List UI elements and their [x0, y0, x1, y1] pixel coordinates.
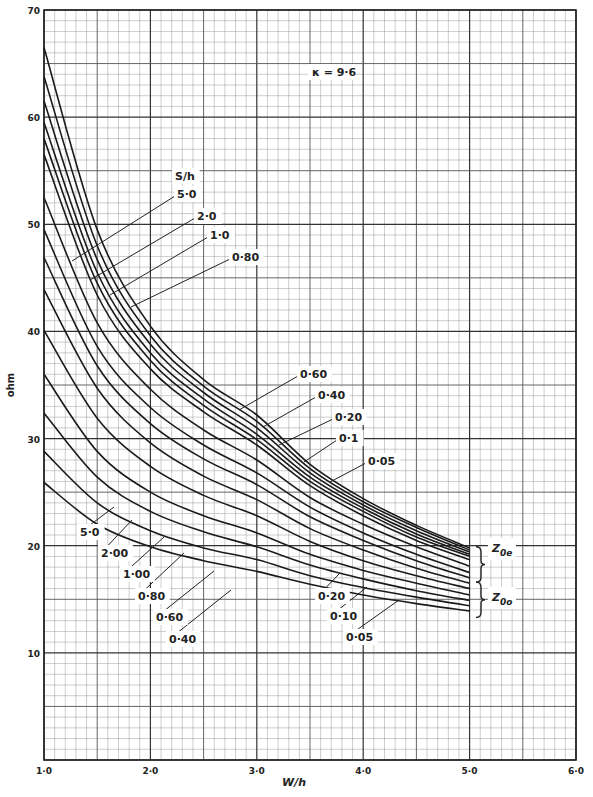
curve-label: 1·0: [210, 229, 230, 242]
y-tick-label: 20: [27, 542, 40, 552]
curve-labels: S/h5·02·01·00·800·600·400·200·10·055·02·…: [77, 168, 400, 647]
x-tick-label: 2·0: [142, 766, 158, 776]
curve-label: 0·60: [156, 611, 183, 624]
y-tick-label: 40: [27, 327, 40, 337]
annotation-kappa: κ = 9·6: [308, 64, 357, 80]
x-tick-label: 6·0: [568, 766, 584, 776]
curve-label: 0·20: [335, 411, 362, 424]
curve-label: S/h: [175, 170, 195, 183]
kappa-annotation: κ = 9·6: [312, 66, 357, 79]
grid-major: [44, 10, 576, 760]
curve-label: 0·20: [318, 590, 345, 603]
curve-label: 0·40: [318, 389, 345, 402]
x-axis-title: W/h: [282, 776, 306, 789]
chart: S/h5·02·01·00·800·600·400·200·10·055·02·…: [0, 0, 593, 797]
curve-label: 0·60: [300, 368, 327, 381]
x-tick-label: 4·0: [355, 766, 371, 776]
curve-label: 5·0: [177, 188, 197, 201]
y-tick-label: 70: [27, 6, 40, 16]
y-tick-labels: 10203040506070: [27, 6, 40, 659]
curve-label: 0·05: [346, 631, 373, 644]
curve-label: 2·0: [197, 210, 217, 223]
y-tick-label: 50: [27, 220, 40, 230]
curve-label: 0·10: [330, 610, 357, 623]
curve-label: 0·80: [138, 590, 165, 603]
y-tick-label: 30: [27, 435, 40, 445]
y-axis-title: ohm: [5, 373, 16, 397]
x-tick-labels: 1·02·03·04·05·06·0: [36, 766, 584, 776]
curve-label: 0·80: [232, 251, 259, 264]
x-tick-label: 1·0: [36, 766, 52, 776]
x-tick-label: 3·0: [249, 766, 265, 776]
x-tick-label: 5·0: [462, 766, 478, 776]
curve-label: 2·00: [101, 547, 128, 560]
curve-label: 1·00: [123, 568, 150, 581]
y-tick-label: 60: [27, 113, 40, 123]
curve-label: 0·05: [368, 455, 395, 468]
y-tick-label: 10: [27, 649, 40, 659]
curve-label: 5·0: [80, 526, 100, 539]
curve-label: 0·40: [169, 633, 196, 646]
curve-label: 0·1: [339, 432, 359, 445]
